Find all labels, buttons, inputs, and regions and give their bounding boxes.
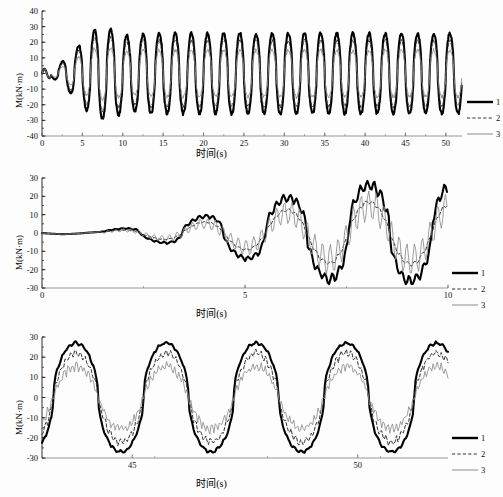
plot-middle-svg: -30-20-1001020300510 123 xyxy=(0,165,503,325)
svg-text:0: 0 xyxy=(34,393,38,403)
svg-text:-30: -30 xyxy=(27,283,38,293)
figure-container: -40-30-20-100102030400510152025303540455… xyxy=(0,0,503,497)
x-axis-label-text-middle: 时间(s) xyxy=(196,308,227,319)
svg-text:20: 20 xyxy=(30,352,39,362)
x-axis-label-text-bottom: 时间(s) xyxy=(196,478,227,489)
svg-text:3: 3 xyxy=(481,300,485,310)
data-lines-bottom xyxy=(42,341,448,452)
svg-text:0: 0 xyxy=(40,290,44,300)
y-axis-label-middle: M(kN·m) xyxy=(14,235,24,270)
svg-text:-10: -10 xyxy=(27,246,38,256)
plot-bottom-svg: -30-20-1001020304550 123 xyxy=(0,325,503,497)
y-axis-label-text-top: M(kN·m) xyxy=(14,73,24,108)
svg-text:3: 3 xyxy=(496,129,500,139)
svg-text:1: 1 xyxy=(496,97,500,107)
svg-text:0: 0 xyxy=(34,228,38,238)
svg-text:20: 20 xyxy=(30,37,39,47)
y-axis-label-text-middle: M(kN·m) xyxy=(14,235,24,270)
plot-top-svg: -40-30-20-100102030400510152025303540455… xyxy=(0,0,503,165)
svg-text:30: 30 xyxy=(30,173,39,183)
svg-text:10: 10 xyxy=(444,290,453,300)
chart-panel-top: -40-30-20-100102030400510152025303540455… xyxy=(0,0,503,165)
x-axis-label-middle: 时间(s) xyxy=(0,305,463,320)
svg-text:-20: -20 xyxy=(27,433,38,443)
legend-bottom: 123 xyxy=(452,433,485,475)
svg-text:5: 5 xyxy=(243,290,247,300)
svg-text:-30: -30 xyxy=(27,453,38,463)
svg-text:2: 2 xyxy=(481,449,485,459)
legend-top: 123 xyxy=(467,97,500,139)
x-axis-label-text-top: 时间(s) xyxy=(196,148,227,159)
svg-text:2: 2 xyxy=(496,113,500,123)
x-axis-label-top: 时间(s) xyxy=(0,145,463,160)
svg-text:-20: -20 xyxy=(27,100,38,110)
y-axis-label-top: M(kN·m) xyxy=(14,73,24,108)
svg-text:30: 30 xyxy=(30,332,39,342)
svg-text:-40: -40 xyxy=(27,131,38,141)
svg-text:50: 50 xyxy=(354,460,363,470)
x-axis-label-bottom: 时间(s) xyxy=(0,475,463,490)
svg-text:30: 30 xyxy=(30,22,39,32)
svg-text:10: 10 xyxy=(30,53,39,63)
data-lines-middle xyxy=(42,181,447,284)
chart-panel-middle: -30-20-1001020300510 123 M(kN·m) 时间(s) xyxy=(0,165,503,325)
svg-text:10: 10 xyxy=(30,210,39,220)
axes-middle: -30-20-1001020300510 xyxy=(27,173,453,300)
svg-text:10: 10 xyxy=(30,372,39,382)
svg-text:20: 20 xyxy=(30,191,39,201)
svg-text:-30: -30 xyxy=(27,115,38,125)
svg-text:2: 2 xyxy=(481,284,485,294)
y-axis-label-text-bottom: M(kN·m) xyxy=(14,400,24,435)
svg-text:-10: -10 xyxy=(27,84,38,94)
svg-text:40: 40 xyxy=(30,6,39,16)
legend-middle: 123 xyxy=(452,268,485,310)
svg-text:1: 1 xyxy=(481,268,485,278)
svg-text:-20: -20 xyxy=(27,265,38,275)
chart-panel-bottom: -30-20-1001020304550 123 M(kN·m) 时间(s) xyxy=(0,325,503,497)
svg-text:3: 3 xyxy=(481,465,485,475)
data-lines-top xyxy=(42,28,462,118)
y-axis-label-bottom: M(kN·m) xyxy=(14,400,24,435)
svg-text:0: 0 xyxy=(34,69,38,79)
svg-text:-10: -10 xyxy=(27,413,38,423)
svg-text:45: 45 xyxy=(128,460,137,470)
svg-text:1: 1 xyxy=(481,433,485,443)
